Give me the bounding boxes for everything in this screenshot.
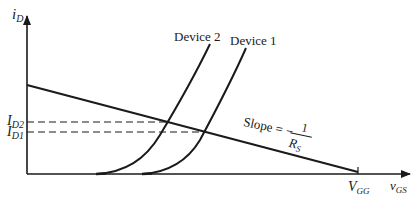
vgg-label: VGG (348, 179, 370, 196)
device-1-label: Device 1 (230, 33, 277, 48)
slope-numerator: 1 (300, 120, 309, 135)
device-2-label: Device 2 (174, 29, 221, 44)
slope-annotation: Slope = − 1 RS (239, 108, 315, 156)
device-2-curve (97, 44, 210, 174)
device-2-start (96, 174, 106, 175)
y-axis-label: iD (12, 6, 24, 24)
load-line (27, 85, 358, 172)
device-1-curve (143, 48, 246, 174)
device-1-start (142, 174, 152, 175)
diagram-canvas: iD vGS ID2 ID1 Device 2 Device 1 Slope =… (0, 0, 415, 200)
x-axis-label: vGS (390, 178, 407, 195)
slope-text: Slope = − (242, 114, 295, 139)
